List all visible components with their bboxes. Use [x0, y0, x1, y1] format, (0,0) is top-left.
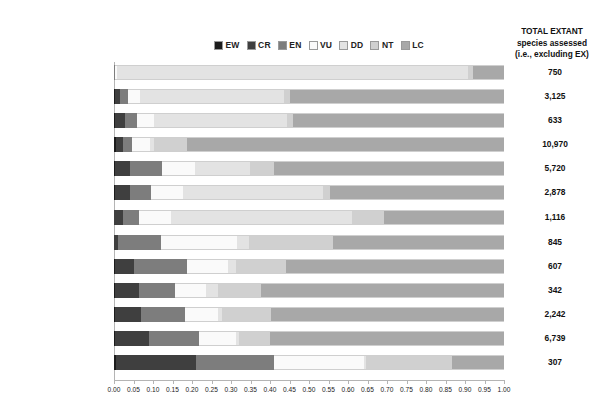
bar-row: Selected Gastropods633 — [114, 113, 504, 128]
bar-segment-lc — [290, 89, 504, 104]
x-tick-label: 0.40 — [264, 386, 277, 393]
bar-segment-dd — [228, 259, 236, 274]
x-tick-label: 0.70 — [381, 386, 394, 393]
legend-swatch-lc-icon — [401, 41, 410, 50]
x-tick-mark — [368, 380, 369, 384]
bar-segment-lc — [384, 210, 504, 225]
total-value: 10,970 — [510, 139, 599, 149]
bar-segment-cr — [116, 137, 123, 152]
total-value: 1,116 — [510, 212, 599, 222]
x-tick-mark — [426, 380, 427, 384]
total-value: 307 — [510, 357, 599, 367]
totals-header-line3: (i.e., excluding EX) — [505, 49, 599, 61]
bar-segment-en — [134, 259, 187, 274]
legend-label: NT — [382, 40, 394, 50]
bar-segment-nt — [222, 307, 271, 322]
bar-segment-cr — [114, 210, 123, 225]
bar-segment-cr — [115, 307, 141, 322]
bar-segment-lc — [274, 161, 504, 176]
total-value: 845 — [510, 237, 599, 247]
bar-segment-cr — [115, 259, 135, 274]
total-value: 342 — [510, 285, 599, 295]
plot-area: Cephalopods750Selected Bony Fishes3,125S… — [114, 62, 504, 380]
bar-segment-vu — [185, 307, 218, 322]
x-tick-label: 0.80 — [420, 386, 433, 393]
bar-segment-lc — [293, 113, 504, 128]
stacked-bar — [114, 89, 504, 104]
bar-segment-lc — [473, 65, 504, 80]
x-tick-mark — [329, 380, 330, 384]
bar-segment-lc — [452, 355, 504, 370]
total-value: 6,739 — [510, 333, 599, 343]
bar-segment-dd — [237, 235, 249, 250]
bar-segment-dd — [195, 161, 250, 176]
bar-segment-lc — [333, 235, 504, 250]
legend-item-ew: EW — [214, 40, 240, 50]
x-tick-label: 0.50 — [303, 386, 316, 393]
bar-segment-dd — [183, 185, 323, 200]
bar-segment-en — [125, 113, 137, 128]
bar-segment-en — [123, 210, 139, 225]
x-tick-mark — [173, 380, 174, 384]
legend-label: EW — [226, 40, 240, 50]
bar-segment-en — [149, 331, 199, 346]
x-tick-mark — [465, 380, 466, 384]
bar-row: Mammals5,720 — [114, 161, 504, 176]
stacked-bar — [114, 235, 504, 250]
bar-segment-nt — [249, 235, 334, 250]
x-tick-label: 0.25 — [205, 386, 218, 393]
stacked-bar — [114, 161, 504, 176]
bar-segment-vu — [187, 259, 228, 274]
legend-item-cr: CR — [247, 40, 271, 50]
stacked-bar — [114, 331, 504, 346]
total-value: 607 — [510, 261, 599, 271]
bar-segment-en — [130, 161, 162, 176]
bar-row: Cycads307 — [114, 355, 504, 370]
stacked-bar-chart: EWCRENVUDDNTLC TOTAL EXTANT species asse… — [0, 0, 599, 416]
x-tick-label: 0.85 — [439, 386, 452, 393]
x-tick-mark — [485, 380, 486, 384]
legend-label: LC — [412, 40, 424, 50]
x-tick-mark — [446, 380, 447, 384]
bar-segment-en — [118, 235, 161, 250]
chart-legend: EWCRENVUDDNTLC — [214, 40, 424, 50]
x-tick-label: 1.00 — [498, 386, 511, 393]
bar-row: Amphibians6,739 — [114, 331, 504, 346]
x-tick-label: 0.95 — [478, 386, 491, 393]
bar-segment-nt — [218, 283, 261, 298]
stacked-bar — [114, 113, 504, 128]
bar-segment-vu — [132, 137, 151, 152]
bar-segment-vu — [175, 283, 206, 298]
bar-segment-dd — [206, 283, 218, 298]
totals-header-line2: species assessed — [505, 38, 599, 50]
x-tick-mark — [251, 380, 252, 384]
x-tick-label: 0.75 — [400, 386, 413, 393]
x-tick-label: 0.45 — [283, 386, 296, 393]
x-tick-mark — [134, 380, 135, 384]
total-value: 750 — [510, 67, 599, 77]
bar-segment-lc — [270, 331, 504, 346]
bar-row: Conifers607 — [114, 259, 504, 274]
bar-segment-en — [196, 355, 274, 370]
stacked-bar — [114, 355, 504, 370]
legend-swatch-en-icon — [278, 41, 287, 50]
bar-segment-lc — [187, 137, 504, 152]
bar-row: Selected Bony Fishes3,125 — [114, 89, 504, 104]
bar-segment-lc — [286, 259, 504, 274]
total-value: 3,125 — [510, 91, 599, 101]
x-tick-label: 0.60 — [342, 386, 355, 393]
bar-segment-nt — [287, 113, 294, 128]
bar-row: Cephalopods750 — [114, 65, 504, 80]
legend-label: CR — [258, 40, 271, 50]
x-tick-mark — [153, 380, 154, 384]
bar-segment-vu — [162, 161, 195, 176]
legend-swatch-nt-icon — [370, 41, 379, 50]
bar-segment-en — [141, 307, 185, 322]
x-tick-label: 0.20 — [186, 386, 199, 393]
bar-segment-vu — [151, 185, 183, 200]
x-tick-label: 0.05 — [127, 386, 140, 393]
total-value: 5,720 — [510, 163, 599, 173]
totals-header-line1: TOTAL EXTANT — [505, 26, 599, 38]
bar-segment-lc — [261, 283, 504, 298]
stacked-bar — [114, 210, 504, 225]
